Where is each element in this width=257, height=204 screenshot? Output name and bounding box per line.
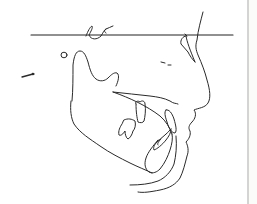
condyle-circle: [61, 52, 67, 58]
mandible-outline: [71, 51, 152, 173]
lower-incisor: [154, 129, 171, 150]
cephalometric-tracing: [0, 0, 257, 204]
right-margin: [249, 0, 257, 204]
lower-molar: [119, 119, 136, 139]
orbit-mark: [161, 62, 171, 65]
porion-dot: [32, 73, 34, 75]
chin-soft-tissue: [130, 136, 176, 185]
porion-marker: [22, 74, 33, 77]
image-border: [247, 0, 249, 204]
sella-turcica: [86, 26, 113, 39]
nasal-bone: [181, 34, 195, 62]
